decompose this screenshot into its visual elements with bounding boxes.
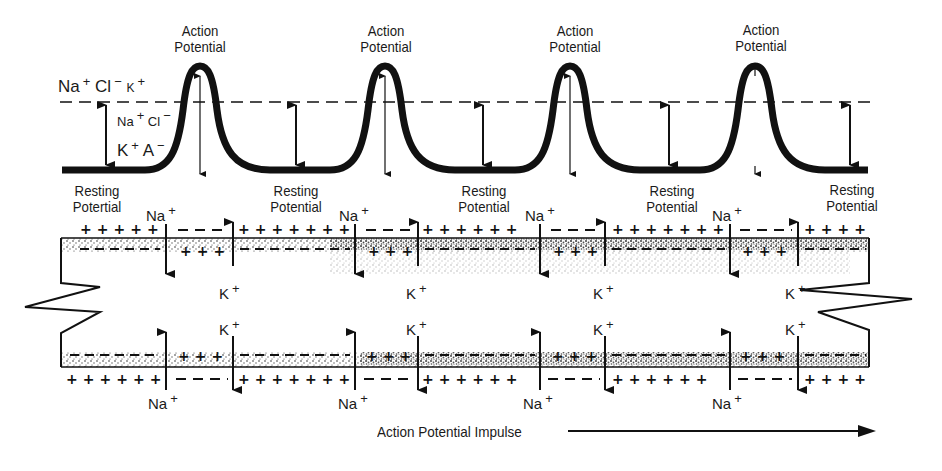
sodium-label-bottom-1: Na+ [148,391,178,412]
potassium-label-lower-2: K+ [406,317,427,338]
outer-positive-charges-bottom-5: ++++ [804,372,871,386]
inner-positive-charges-top-3: +++ [553,244,603,258]
outer-positive-charges-bottom-2: +++++++ [238,372,355,386]
outer-positive-charges-top-1: +++++ [80,222,164,236]
inner-positive-charges-top-2: +++ [368,244,418,258]
resting-label-1: RestingPotertial [66,183,128,215]
impulse-arrowhead-icon [858,425,876,437]
peak-label-1: ActionPotential [174,23,227,55]
resting-label-5: RestingPotential [820,182,883,214]
peak-amplitude-arrows [200,68,755,174]
outer-positive-charges-top-3: ++++++ [422,222,522,236]
outer-positive-charges-bottom-1: ++++++ [66,372,166,386]
inside-ion-label-upper: Na+ Cl− [117,108,171,129]
peak-label-4: ActionPotential [735,22,788,54]
action-potential-waveform [62,66,868,170]
sodium-label-bottom-3: Na+ [523,391,553,412]
action-potential-diagram: +++++ +++++++ ++++++ +++++++ ++++ +++ ++… [0,0,942,471]
resting-label-2: RestingPotential [264,183,327,215]
sodium-label-top-2: Na+ [339,203,369,224]
peak-label-2: ActionPotential [360,23,413,55]
impulse-direction-label: Action Potential Impulse [377,423,522,440]
potassium-label-upper-4: K+ [785,281,806,302]
inner-positive-charges-bottom-4: +++ [740,349,790,363]
outside-ion-label: Na+ Cl− K+ [58,74,145,97]
potassium-label-lower-4: K+ [785,317,806,338]
sodium-label-top-1: Na+ [146,203,176,224]
outer-positive-charges-top-5: ++++ [804,222,871,236]
potassium-label-lower-1: K+ [219,317,240,338]
sodium-label-bottom-4: Na+ [712,391,742,412]
peak-label-3: ActionPotential [549,23,602,55]
inner-positive-charges-bottom-3: +++ [552,349,602,363]
resting-label-4: RestingPotential [640,183,703,215]
outer-positive-charges-bottom-3: ++++++ [422,372,522,386]
axon-cut-left [25,238,100,367]
potassium-label-upper-2: K+ [406,281,427,302]
outer-positive-charges-top-4: +++++++ [612,222,729,236]
resting-label-3: RestingPotential [452,183,515,215]
sodium-label-top-3: Na+ [525,203,555,224]
outer-positive-charges-bottom-4: ++++++ [612,372,712,386]
inner-positive-charges-bottom-2: +++ [366,349,416,363]
potassium-label-lower-3: K+ [593,317,614,338]
potassium-label-upper-3: K+ [593,281,614,302]
potassium-label-upper-1: K+ [219,281,240,302]
sodium-label-top-4: Na+ [712,203,742,224]
sodium-label-bottom-2: Na+ [338,391,368,412]
outer-positive-charges-top-2: +++++++ [238,222,355,236]
inner-positive-charges-top-4: +++ [742,244,792,258]
inner-positive-charges-bottom-1: +++ [178,349,228,363]
inner-positive-charges-top-1: +++ [180,244,230,258]
inside-ion-label-lower: K+ A− [117,138,165,161]
